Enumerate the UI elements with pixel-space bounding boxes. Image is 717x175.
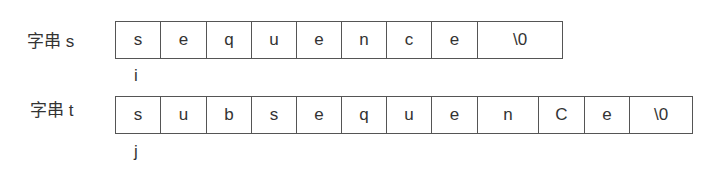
string-s-cell: e <box>161 22 207 58</box>
string-s-cell: \0 <box>478 22 563 58</box>
string-s-cell: e <box>432 22 478 58</box>
string-s-cell: c <box>387 22 432 58</box>
string-t-cell: e <box>432 97 478 133</box>
string-t-cell: e <box>297 97 342 133</box>
string-t-cell: C <box>539 97 585 133</box>
string-t-cell: e <box>585 97 630 133</box>
string-s-cell: n <box>342 22 387 58</box>
string-t-cell: s <box>252 97 297 133</box>
string-t-cell: b <box>207 97 252 133</box>
string-t-cell: u <box>161 97 207 133</box>
string-s-cell: e <box>297 22 342 58</box>
pointer-j: j <box>134 142 138 162</box>
string-s-cell: q <box>207 22 252 58</box>
string-s-cell: u <box>252 22 297 58</box>
pointer-i: i <box>134 66 138 86</box>
string-t-cell: u <box>387 97 432 133</box>
string-t-cell: s <box>116 97 161 133</box>
string-t-cell: \0 <box>630 97 693 133</box>
string-s-cell: s <box>116 22 161 58</box>
string-t-label: 字串 t <box>30 96 73 121</box>
string-s-label: 字串 s <box>27 27 74 52</box>
string-s-array: sequence\0 <box>115 21 563 59</box>
string-t-cell: q <box>342 97 387 133</box>
string-t-cell: n <box>478 97 539 133</box>
string-t-array: subsequenCe\0 <box>115 96 693 134</box>
